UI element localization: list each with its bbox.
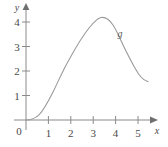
x-tick-label-4: 4 (113, 127, 119, 139)
coordinate-plot: 1 2 3 4 5 1 2 3 4 0 y x g (0, 0, 168, 147)
y-tick-label-2: 2 (14, 65, 20, 77)
y-tick-label-4: 4 (14, 16, 20, 28)
origin-label: 0 (16, 125, 22, 137)
x-tick-label-3: 3 (90, 127, 96, 139)
curve-label-g: g (118, 28, 123, 39)
y-axis-arrow-icon (23, 3, 30, 10)
x-axis-arrow-icon (150, 117, 158, 124)
x-tick-label-1: 1 (46, 127, 52, 139)
graph-figure: 1 2 3 4 5 1 2 3 4 0 y x g (0, 0, 168, 147)
x-axis-label: x (154, 125, 160, 136)
function-curve-g (26, 17, 148, 120)
y-tick-label-1: 1 (14, 90, 20, 102)
x-tick-label-2: 2 (68, 127, 74, 139)
x-tick-label-5: 5 (135, 127, 141, 139)
y-tick-label-3: 3 (14, 41, 20, 53)
y-axis-label: y (14, 2, 20, 13)
